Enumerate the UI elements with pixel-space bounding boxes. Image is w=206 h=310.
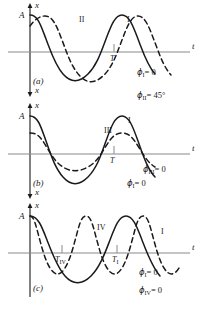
wave-comparison-figure: x x t A T II I (a) ϕI= 0 ϕII= 45° x x t … [0,0,206,310]
phi-subscript: I [133,183,135,189]
panel-label-c: (c) [33,284,43,293]
y-axis-label-bottom-b: x [35,188,39,197]
amplitude-label-a: A [19,11,25,20]
phase-label-I-a: ϕI= 0 [137,62,156,78]
phi-subscript: I [143,72,145,78]
phi-subscript: IV [145,290,151,296]
panel-a-plot [0,0,206,100]
period-label-a: T [110,55,114,63]
phase-label-I-c: ϕI= 0 [139,262,158,278]
amplitude-label-b: A [19,112,25,121]
period-subscript: IV [59,259,65,265]
phi-subscript: III [149,169,155,175]
phi-value: = 0 [155,164,166,174]
y-axis-arrow-bottom [28,194,33,199]
y-axis-label-b: x [35,101,39,110]
phi-symbol: ϕ [137,67,143,77]
y-axis-arrow [28,103,33,108]
curve-label-III: III [104,127,112,135]
amplitude-label-c: A [19,212,25,221]
curve-label-I-a: I [127,16,130,24]
y-axis-arrow-bottom [28,92,33,97]
period-label-IV: TIV [55,256,66,264]
x-axis-label-b: t [192,144,195,153]
panel-b: x x t A T III I (b) ϕIII= 0 ϕI= 0 [0,100,206,202]
phase-label-I-b: ϕI= 0 [127,173,146,189]
curve-label-I-b: I [128,117,131,125]
phi-value: = 0 [151,285,162,295]
phase-label-II-a: ϕII= 45° [137,85,165,101]
phi-symbol: ϕ [139,285,145,295]
phi-subscript: I [145,272,147,278]
phi-value: = 0 [135,178,146,188]
x-axis-label-c: t [192,243,195,252]
y-axis-label-bottom-a: x [35,86,39,95]
phi-symbol: ϕ [137,90,143,100]
phi-value: = 45° [147,90,166,100]
phi-symbol: ϕ [139,267,145,277]
period-label-b: T [110,157,114,165]
curve-label-II: II [79,16,84,24]
panel-b-plot [0,100,206,202]
phi-symbol: ϕ [127,178,133,188]
phase-label-III-b: ϕIII= 0 [143,159,166,175]
x-axis-label-a: t [192,42,195,51]
y-axis-label-a: x [35,1,39,10]
panel-c-plot [0,202,206,310]
phi-value: = 0 [145,67,156,77]
phase-label-IV-c: ϕIV= 0 [139,280,162,296]
panel-a: x x t A T II I (a) ϕI= 0 ϕII= 45° [0,0,206,100]
period-label-I: TI [112,256,118,264]
panel-c: x t A TIV TI IV I (c) ϕI= 0 ϕIV= 0 [0,202,206,310]
curve-III [30,133,155,171]
phi-value: = 0 [147,267,158,277]
panel-label-b: (b) [33,179,44,188]
curve-label-I-c: I [161,228,164,236]
curve-label-IV: IV [97,224,105,232]
y-axis-label-c: x [35,201,39,210]
y-axis-arrow [28,203,33,208]
panel-label-a: (a) [33,77,44,86]
y-axis-arrow [28,3,33,8]
